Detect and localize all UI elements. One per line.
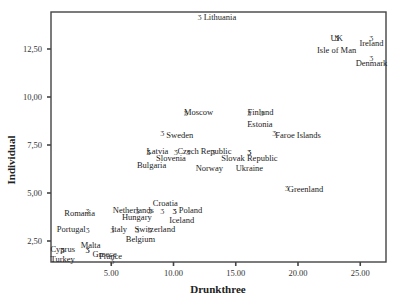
point-label: Romania	[64, 208, 95, 218]
point-marker-icon: Ʒ	[173, 207, 177, 215]
point-label: Hungary	[122, 212, 152, 222]
data-point: ƷSweden	[160, 129, 194, 140]
point-label: Estonia	[247, 119, 273, 129]
point-label: Belgium	[126, 234, 156, 244]
data-point: ƷSwitzerland	[135, 224, 176, 234]
x-tick-label: 20.00	[288, 268, 307, 278]
point-marker-icon: Ʒ	[86, 246, 90, 254]
point-marker-icon: Ʒ	[260, 109, 264, 117]
y-axis-title: Individual	[5, 136, 17, 185]
x-axis-title: Drunkthree	[190, 283, 246, 295]
point-label: Isle of Man	[317, 45, 357, 55]
data-points: ƷLithuaniaƷUKƷIsle of ManƷIrelandƷDenmar…	[50, 12, 388, 265]
point-label: Ireland	[359, 38, 384, 48]
point-label: Norway	[196, 163, 224, 173]
data-point: ƷGreenland	[285, 184, 324, 194]
point-label: Turkey	[51, 254, 76, 264]
point-marker-icon: Ʒ	[160, 129, 164, 137]
point-label: Denmark	[356, 58, 388, 68]
data-point: ƷIsle of Man	[317, 34, 357, 55]
x-axis: 5.0010.0015.0020.0025.00	[104, 262, 370, 278]
y-tick-label: 10,00	[23, 92, 42, 102]
point-label: Portugal	[57, 224, 86, 234]
point-label: Ukraine	[236, 163, 264, 173]
point-marker-icon: Ʒ	[335, 34, 339, 42]
x-tick-label: 5.00	[104, 268, 119, 278]
point-marker-icon: Ʒ	[86, 226, 90, 234]
data-point: ƷIreland	[359, 34, 384, 48]
scatter-chart: 5.0010.0015.0020.0025.00 2,505,007,5010,…	[0, 0, 403, 300]
point-marker-icon: Ʒ	[211, 148, 215, 156]
point-marker-icon: Ʒ	[61, 246, 65, 254]
data-point: ƷDenmark	[356, 54, 388, 68]
x-tick-label: 15.00	[226, 268, 245, 278]
point-label: Faroe Islands	[275, 130, 321, 140]
data-point: ƷFaroe Islands	[272, 129, 320, 140]
point-label: France	[99, 251, 122, 261]
data-point: ƷFrance	[99, 251, 122, 265]
x-tick-label: 10.00	[164, 268, 183, 278]
y-tick-label: 5,00	[27, 188, 42, 198]
x-tick-label: 25.00	[351, 268, 370, 278]
y-tick-label: 12,50	[23, 44, 42, 54]
y-tick-label: 7,50	[27, 140, 42, 150]
point-label: Greenland	[288, 184, 324, 194]
data-point: ƷMoscow	[184, 107, 214, 117]
data-point: ƷItaly	[111, 224, 128, 234]
data-point: ƷRomania	[64, 207, 95, 218]
data-point: ƷLithuania	[198, 12, 237, 22]
point-marker-icon: Ʒ	[248, 148, 252, 156]
point-marker-icon: Ʒ	[198, 13, 202, 21]
point-label: Poland	[179, 205, 203, 215]
point-label: Italy	[111, 224, 127, 234]
point-label: Switzerland	[135, 224, 176, 234]
point-label: Lithuania	[204, 12, 237, 22]
point-label: Sweden	[166, 130, 194, 140]
point-marker-icon: Ʒ	[147, 148, 151, 156]
point-label: Moscow	[184, 107, 214, 117]
y-tick-label: 2,50	[27, 236, 42, 246]
point-marker-icon: Ʒ	[160, 207, 164, 215]
data-point: ƷPortugal	[57, 224, 90, 234]
y-axis: 2,505,007,5010,0012,50	[23, 44, 51, 246]
